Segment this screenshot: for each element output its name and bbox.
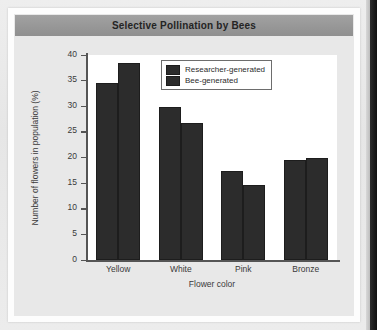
- bar: [96, 83, 118, 260]
- legend-swatch: [166, 76, 180, 86]
- y-axis-tick-mark: [81, 260, 87, 261]
- chart-title-band: Selective Pollination by Bees: [15, 15, 353, 36]
- legend-label: Bee-generated: [185, 76, 238, 85]
- x-axis-label: Flower color: [87, 279, 337, 289]
- y-axis-tick-label: 10: [68, 202, 77, 212]
- bar: [284, 160, 306, 260]
- y-axis-tick-mark: [81, 55, 87, 56]
- y-axis-tick-mark: [81, 234, 87, 235]
- y-axis-tick: 35: [81, 80, 87, 81]
- y-axis-tick-mark: [81, 80, 87, 81]
- y-axis-tick-label: 25: [68, 125, 77, 135]
- y-axis-tick: 10: [81, 208, 87, 209]
- chart-title: Selective Pollination by Bees: [112, 20, 256, 31]
- y-axis-tick-label: 20: [68, 151, 77, 161]
- y-axis-tick: 25: [81, 131, 87, 132]
- bar: [118, 63, 140, 260]
- y-axis-tick: 40: [81, 55, 87, 56]
- y-axis-tick-mark: [81, 106, 87, 107]
- y-axis-tick-mark: [81, 131, 87, 132]
- y-axis-label-text: Number of flowers in population (%): [30, 90, 40, 225]
- y-axis-tick: 5: [81, 234, 87, 235]
- y-axis-label: Number of flowers in population (%): [29, 55, 41, 260]
- x-axis-line: [86, 260, 340, 262]
- x-axis-category-label: Bronze: [292, 264, 319, 274]
- x-axis-category-label: Pink: [235, 264, 252, 274]
- x-axis-category-label: White: [170, 264, 192, 274]
- plot-wrapper: 0510152025303540 YellowWhitePinkBronze F…: [15, 36, 353, 316]
- y-axis-tick-label: 5: [72, 228, 77, 238]
- y-axis-tick-label: 0: [72, 254, 77, 264]
- screenshot-root: Selective Pollination by Bees 0510152025…: [0, 0, 377, 330]
- y-axis-tick-mark: [81, 157, 87, 158]
- y-axis-tick: 30: [81, 106, 87, 107]
- bar: [159, 107, 181, 260]
- bar: [243, 185, 265, 260]
- scan-dark-edge: [370, 0, 377, 330]
- figure-card: Selective Pollination by Bees 0510152025…: [8, 8, 360, 322]
- y-axis-tick-mark: [81, 208, 87, 209]
- chart-legend: Researcher-generatedBee-generated: [161, 60, 272, 90]
- bar: [181, 123, 203, 260]
- legend-item: Bee-generated: [166, 75, 265, 86]
- y-axis-tick-label: 35: [68, 74, 77, 84]
- y-axis-tick-label: 15: [68, 177, 77, 187]
- x-axis-category-label: Yellow: [106, 264, 130, 274]
- legend-swatch: [166, 65, 180, 75]
- legend-item: Researcher-generated: [166, 64, 265, 75]
- legend-label: Researcher-generated: [185, 65, 265, 74]
- y-axis-tick-label: 40: [68, 49, 77, 59]
- bar: [221, 171, 243, 260]
- y-axis-tick: 20: [81, 157, 87, 158]
- bar: [306, 158, 328, 260]
- y-axis-tick: 15: [81, 183, 87, 184]
- y-axis-tick: 0: [81, 260, 87, 261]
- y-axis-tick-label: 30: [68, 100, 77, 110]
- y-axis-tick-mark: [81, 183, 87, 184]
